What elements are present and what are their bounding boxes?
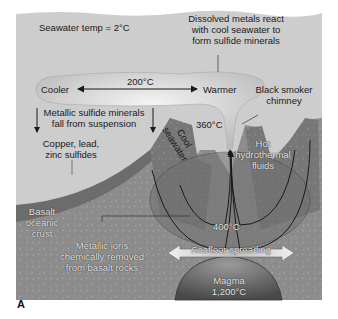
sulfides-label: Copper, lead, zinc sulfides [36, 138, 106, 160]
metallic-sulfide-fall-label: Metallic sulfide minerals fall from susp… [38, 107, 150, 129]
dissolved-metals-label: Dissolved metals react with cool seawate… [176, 13, 296, 46]
metallic-ions-label: Metallic ions chemically removed from ba… [52, 240, 152, 273]
cooler-label: Cooler [41, 84, 69, 95]
deep-temp-label: 400°C [213, 221, 240, 232]
black-smoker-label: Black smoker chimney [244, 84, 324, 106]
panel-letter: A [17, 298, 25, 310]
magma-label: Magma 1,200°C [208, 275, 250, 297]
seawater-temp-label: Seawater temp = 2°C [39, 22, 130, 33]
warmer-label: Warmer [203, 84, 236, 95]
seafloor-spreading-label: Seafloor spreading [186, 244, 276, 255]
plume-temp-label: 200°C [127, 76, 154, 87]
hot-fluids-label: Hot hydrothermal fluids [228, 138, 298, 171]
vent-temp-label: 360°C [196, 119, 223, 130]
basalt-crust-label: Basalt oceanic crust [22, 206, 62, 239]
